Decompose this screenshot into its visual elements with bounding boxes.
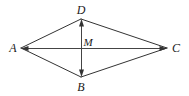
vertex-label-d: D [77,4,86,16]
vertex-label-b: B [77,81,84,93]
side-dc [81,19,167,48]
geometry-figure: A D C B M [0,0,189,96]
intersection-label-m: M [83,37,92,48]
side-ba [21,48,81,77]
diagonal-ac [21,46,167,51]
side-ad [21,19,81,48]
vertex-label-c: C [172,42,180,54]
figure-canvas [0,0,189,96]
vertex-label-a: A [9,42,16,54]
side-cb [81,48,167,77]
